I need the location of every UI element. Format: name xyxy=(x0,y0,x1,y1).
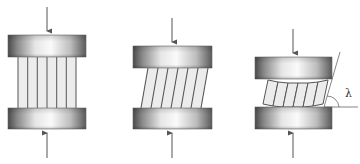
top-plate xyxy=(133,46,212,68)
panel-sheared xyxy=(133,18,212,158)
top-plate xyxy=(255,57,332,79)
top-plate xyxy=(8,35,86,57)
bottom-plate xyxy=(8,108,86,129)
rotated-blocks xyxy=(263,80,328,107)
panel-rotated: λ xyxy=(255,29,358,158)
crystal-compression-diagram: λ xyxy=(0,0,360,164)
strips xyxy=(18,57,76,108)
bottom-plate xyxy=(255,107,332,129)
angle-arc xyxy=(327,96,339,107)
bottom-plate xyxy=(133,108,212,129)
panel-undeformed xyxy=(8,7,86,158)
slanted-strips xyxy=(141,68,208,108)
angle-label: λ xyxy=(345,87,352,100)
